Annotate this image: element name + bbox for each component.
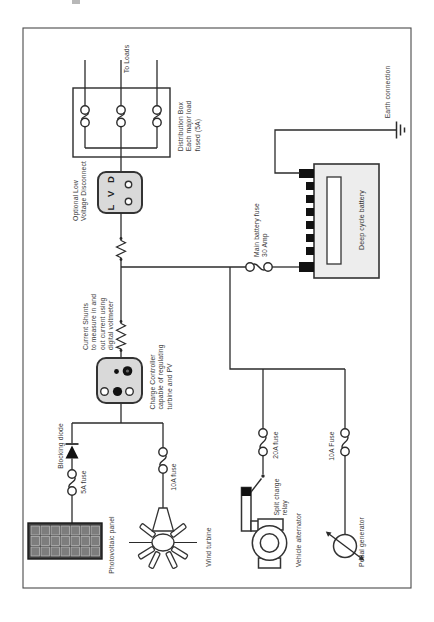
- photovoltaic-panel-icon: [28, 523, 102, 559]
- earth-connection-icon: [397, 122, 405, 139]
- fuse-20a-icon: [259, 429, 267, 456]
- charge-controller-label: Charge Controller capable of regulating …: [149, 344, 174, 409]
- fuse-5a-icon: [68, 470, 76, 495]
- vehicle-alternator-label: Vehicle alternator: [295, 513, 303, 567]
- fuse-10a-pedal-label: 10A Fuse: [328, 431, 336, 461]
- blocking-diode-icon: [66, 444, 79, 459]
- current-shunts-label: Current Shunts to measure in and out cur…: [82, 294, 115, 350]
- earth-connection-label: Earth connection: [384, 66, 392, 119]
- blocking-diode-label: Blocking diode: [57, 423, 65, 469]
- distribution-fuse-icons: [81, 106, 161, 127]
- pedal-generator-label: Pedal generator: [358, 517, 366, 567]
- split-charge-relay-label: Split charge relay: [273, 478, 290, 515]
- to-loads-label: To Loads: [123, 45, 131, 73]
- photovoltaic-panel-label: Photovoltaic panel: [108, 516, 116, 573]
- distribution-box-label: Distribution Box Each major load fused (…: [177, 101, 202, 152]
- page-crop-mark: [72, 0, 80, 4]
- deep-cycle-battery: [299, 164, 379, 278]
- wind-turbine-label: Wind turbine: [205, 527, 213, 566]
- fuse-10a-pedal-icon: [341, 429, 349, 456]
- fuse-20a-label: 20A fuse: [272, 431, 280, 458]
- main-battery-fuse-label: Main battery fuse 30 Amp: [253, 203, 270, 257]
- lvd-box-text: L V D: [106, 173, 116, 210]
- main-battery-fuse-icon: [246, 263, 272, 271]
- lvd-label: Optional Low Voltage Disconnect: [72, 161, 89, 221]
- circuit-diagram: [0, 0, 434, 622]
- fuse-5a-label: 5A fuse: [80, 470, 88, 493]
- battery-terminals: [299, 169, 314, 272]
- figure-page: To Loads Distribution Box Each major loa…: [0, 0, 434, 622]
- deep-cycle-battery-label: Deep cycle battery: [358, 190, 366, 250]
- wind-turbine-icon: [129, 508, 197, 569]
- fuse-10a-wind-icon: [159, 448, 167, 473]
- fuse-10a-wind-label: 10A fuse: [170, 463, 178, 490]
- charge-controller-box: [97, 358, 142, 403]
